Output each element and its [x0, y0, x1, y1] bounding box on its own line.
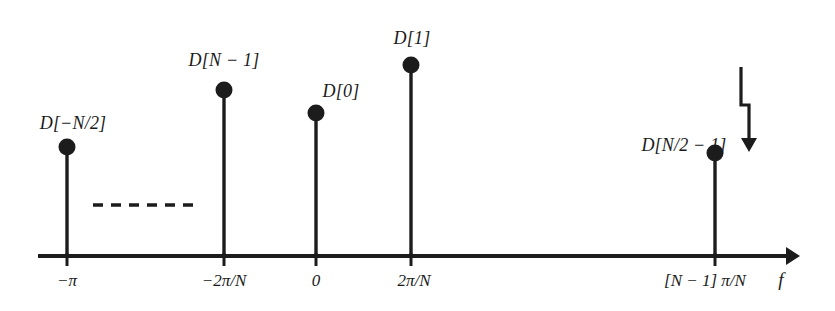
x-tick-label-zero: 0 — [312, 272, 321, 289]
stem-dot-d-1 — [403, 57, 420, 74]
stem-dots — [59, 57, 724, 162]
x-tick-label-n-minus-1-pi-over-n: [N − 1] π/N — [664, 272, 746, 289]
x-tick-label-neg-2pi-over-n: −2π/N — [202, 272, 247, 289]
stem-label-d-neg-n-over-2: D[−N/2] — [40, 114, 107, 132]
pointer-arrow-head — [741, 138, 757, 152]
stem-plot-figure: D[−N/2] D[N − 1] D[0] D[1] D[N/2 − 1] −π… — [0, 0, 835, 311]
stem-lines — [67, 65, 715, 258]
x-axis — [38, 247, 800, 265]
x-tick-label-2pi-over-n: 2π/N — [397, 272, 430, 289]
stem-label-d-n-over-2-minus-1: D[N/2 − 1] — [641, 136, 726, 154]
stepped-pointer-arrow-icon — [741, 67, 757, 152]
x-axis-variable-label: f — [778, 270, 783, 289]
stem-label-d-n-minus-1: D[N − 1] — [189, 51, 260, 69]
pointer-arrow-shaft — [741, 67, 749, 140]
stem-dot-d-neg-n-over-2 — [59, 139, 76, 156]
stem-dot-d-n-minus-1 — [216, 82, 233, 99]
stem-label-d-1: D[1] — [394, 29, 431, 47]
stem-label-d-0: D[0] — [323, 82, 360, 100]
x-axis-arrowhead — [786, 247, 800, 265]
stem-dot-d-0 — [308, 105, 325, 122]
x-tick-label-neg-pi: −π — [57, 272, 77, 289]
